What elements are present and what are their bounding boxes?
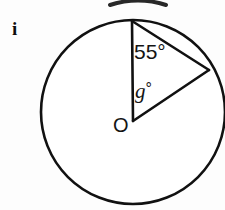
inscribed-angle-label: 55° [134,41,166,62]
part-label: i [12,19,17,38]
central-angle-label: g° [135,81,152,102]
top-edge-arc-artifact [110,1,166,6]
degree-symbol-icon: ° [146,80,152,97]
central-angle-variable: g [135,79,146,103]
circle-diagram-canvas [0,0,225,210]
center-point-label: O [113,115,129,135]
radius-to-top-line [132,21,133,121]
geometry-figure: i 55° g° O [0,0,225,210]
